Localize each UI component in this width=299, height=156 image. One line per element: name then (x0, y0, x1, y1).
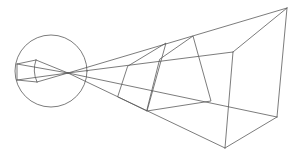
projection-ray (68, 73, 277, 117)
diagram-svg (0, 0, 299, 156)
big-box-bottom-edge (225, 117, 277, 148)
perspective-diagram (0, 0, 299, 156)
frame-2 (147, 36, 211, 111)
lens-circle (15, 35, 87, 107)
projection-ray (17, 64, 68, 73)
projection-ray (36, 60, 68, 73)
projection-ray (68, 52, 233, 73)
projection-ray (68, 8, 287, 73)
big-box-top-edge (233, 8, 287, 52)
projection-ray (37, 73, 68, 82)
frame-1 (118, 43, 166, 111)
small-object-curved-edge (34, 60, 37, 82)
small-object-bottom-edge (17, 80, 37, 82)
big-box-near-edge (225, 52, 233, 148)
big-box-far-edge (277, 8, 287, 117)
small-object-top-edge (17, 60, 36, 64)
projection-ray (17, 73, 68, 80)
